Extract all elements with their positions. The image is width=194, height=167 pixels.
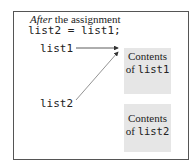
- arrow-list2-to-contents1: [76, 52, 118, 100]
- reference-arrows: [0, 0, 194, 167]
